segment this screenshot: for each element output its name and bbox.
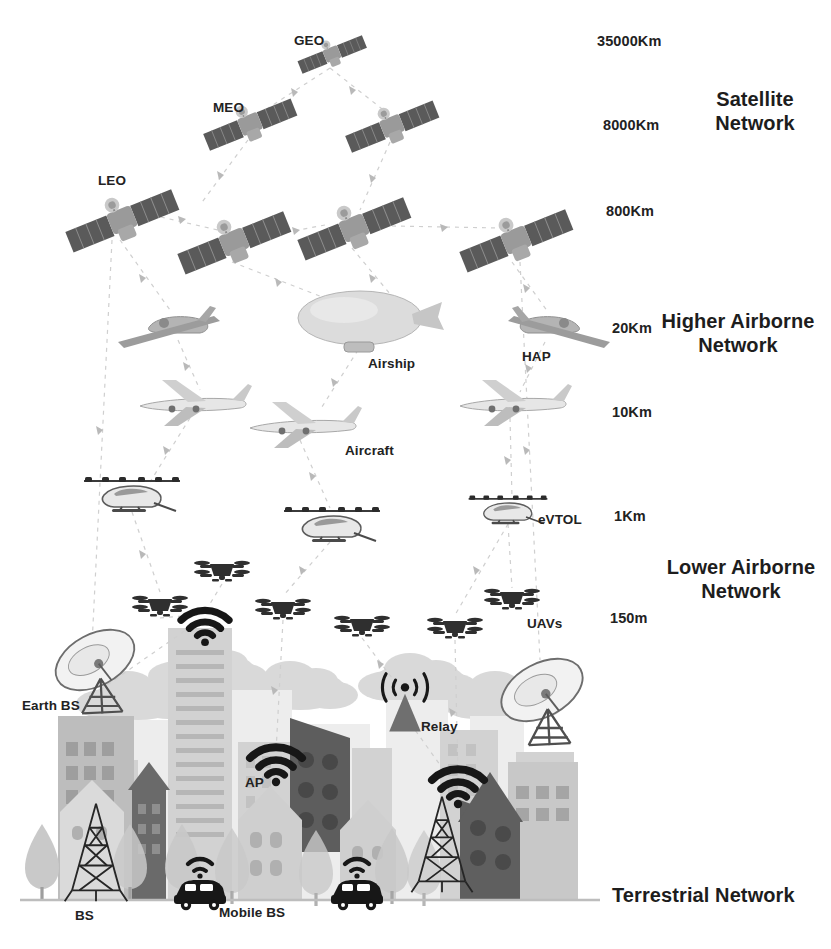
hap-left bbox=[118, 306, 220, 348]
aircraft-group bbox=[140, 380, 572, 448]
node-label-airship: Airship bbox=[368, 356, 415, 372]
altitude-label-8000km: 8000Km bbox=[603, 117, 659, 134]
cloud-band bbox=[76, 643, 563, 720]
tier-label-line1: Higher Airborne bbox=[648, 310, 828, 334]
network-architecture-figure: 35000Km 8000Km 800Km 20Km 10Km 1Km 150m … bbox=[0, 0, 831, 949]
tier-label-line2: Network bbox=[648, 334, 828, 358]
tier-label-terrestrial-network: Terrestrial Network bbox=[612, 884, 795, 908]
tier-label-higher-airborne-network: Higher Airborne Network bbox=[648, 310, 828, 357]
tier-label-lower-airborne-network: Lower Airborne Network bbox=[655, 556, 827, 603]
altitude-label-1km: 1Km bbox=[614, 508, 646, 525]
altitude-label-35000km: 35000Km bbox=[597, 33, 661, 50]
tier-label-satellite-network: Satellite Network bbox=[690, 88, 820, 135]
node-label-mobile-bs: Mobile BS bbox=[219, 905, 285, 921]
altitude-label-10km: 10Km bbox=[612, 404, 652, 421]
node-label-relay: Relay bbox=[421, 719, 458, 735]
altitude-label-800km: 800Km bbox=[606, 203, 654, 220]
node-label-leo: LEO bbox=[98, 173, 126, 189]
tier-label-line2: Network bbox=[655, 580, 827, 604]
node-label-hap: HAP bbox=[522, 349, 551, 365]
tier-label-line1: Lower Airborne bbox=[655, 556, 827, 580]
node-label-uavs: UAVs bbox=[527, 616, 562, 632]
node-label-geo: GEO bbox=[294, 33, 324, 49]
airship bbox=[298, 291, 444, 352]
node-label-evtol: eVTOL bbox=[538, 512, 582, 528]
meo-satellites bbox=[199, 87, 442, 159]
tier-label-line1: Satellite bbox=[690, 88, 820, 112]
node-label-aircraft: Aircraft bbox=[345, 443, 394, 459]
node-label-earth-bs: Earth BS bbox=[22, 698, 80, 714]
tier-label-line2: Network bbox=[690, 112, 820, 136]
evtol-group bbox=[84, 477, 547, 542]
altitude-label-150m: 150m bbox=[610, 610, 648, 627]
terrestrial-layer bbox=[0, 0, 831, 949]
leo-satellites bbox=[60, 176, 577, 283]
node-label-ap: AP bbox=[245, 775, 264, 791]
node-label-bs: BS bbox=[75, 908, 94, 924]
altitude-label-20km: 20Km bbox=[612, 320, 652, 337]
hap-right bbox=[508, 306, 610, 348]
node-label-meo: MEO bbox=[213, 100, 244, 116]
